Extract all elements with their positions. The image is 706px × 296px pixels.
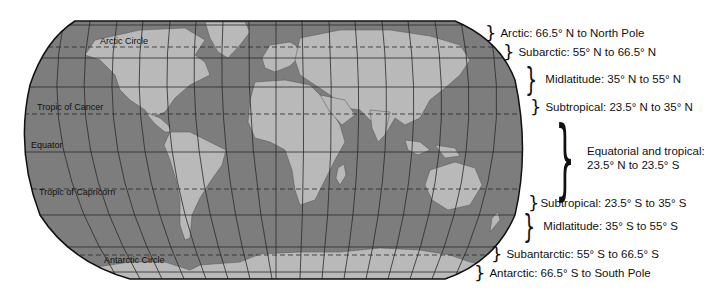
- zone-label: Antarctic: 66.5° S to South Pole: [489, 267, 650, 279]
- zone-label: Subtropical: 23.5° S to 35° S: [540, 197, 686, 209]
- tropic-of-cancer-label: Tropic of Cancer: [37, 102, 103, 112]
- tropic-of-capricorn-label: Tropic of Capricorn: [39, 187, 115, 197]
- zone-arctic: } Arctic: 66.5° N to North Pole: [485, 24, 644, 42]
- zone-midlatitude-north: } Midlatitude: 35° N to 55° N: [521, 63, 681, 95]
- zone-label: Subantarctic: 55° S to 66.5° S: [506, 248, 658, 260]
- zone-antarctic: } Antarctic: 66.5° S to South Pole: [474, 264, 651, 282]
- arctic-circle-label: Arctic Circle: [100, 36, 148, 46]
- zone-subantarctic: } Subantarctic: 55° S to 66.5° S: [491, 245, 659, 263]
- zone-label: Equatorial and tropical: 23.5° N to 23.5…: [587, 144, 705, 172]
- brace-icon: }: [485, 24, 496, 42]
- equator-label: Equator: [31, 140, 63, 150]
- zone-midlatitude-south: } Midlatitude: 35° S to 55° S: [519, 210, 678, 242]
- brace-icon: }: [555, 114, 575, 202]
- brace-icon: }: [474, 264, 485, 282]
- brace-icon: }: [525, 63, 537, 95]
- brace-icon: }: [523, 210, 535, 242]
- zone-equatorial-tropical: } Equatorial and tropical: 23.5° N to 23…: [537, 114, 705, 202]
- zone-subarctic: } Subarctic: 55° N to 66.5° N: [503, 43, 656, 61]
- world-map: Arctic Circle Tropic of Cancer Equator T…: [0, 0, 540, 296]
- antarctic-circle-label: Antarctic Circle: [104, 255, 165, 265]
- brace-icon: }: [503, 43, 514, 61]
- zone-label: Arctic: 66.5° N to North Pole: [500, 27, 644, 39]
- zone-label: Midlatitude: 35° S to 55° S: [543, 220, 678, 232]
- zone-label: Midlatitude: 35° N to 55° N: [545, 73, 681, 85]
- brace-icon: }: [491, 245, 502, 263]
- zone-label: Subarctic: 55° N to 66.5° N: [518, 46, 656, 58]
